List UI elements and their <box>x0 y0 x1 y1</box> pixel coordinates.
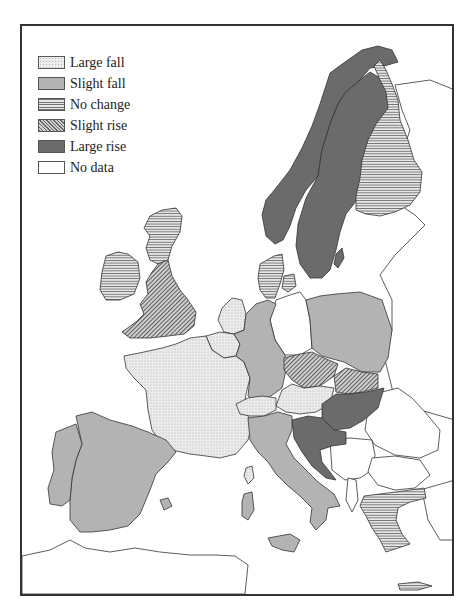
legend-label: Slight rise <box>70 119 127 133</box>
legend-item-slight-rise: Slight rise <box>38 115 130 136</box>
greece <box>360 488 426 552</box>
sardinia <box>242 492 254 520</box>
denmark <box>258 254 284 298</box>
slight-fall-swatch <box>38 77 65 90</box>
albania <box>346 478 358 512</box>
legend-label: Large rise <box>70 140 126 154</box>
balearics <box>160 498 172 510</box>
legend-item-large-rise: Large rise <box>38 136 130 157</box>
legend-label: Large fall <box>70 56 125 70</box>
large-fall-swatch <box>38 56 65 69</box>
legend-label: Slight fall <box>70 77 126 91</box>
legend-item-large-fall: Large fall <box>38 52 130 73</box>
legend-item-no-change: No change <box>38 94 130 115</box>
legend-item-no-data: No data <box>38 157 130 178</box>
bulgaria <box>368 456 430 490</box>
slight-rise-swatch <box>38 119 65 132</box>
no-data-swatch <box>38 161 65 174</box>
legend-label: No data <box>70 161 114 175</box>
turkey <box>420 480 455 540</box>
netherlands <box>218 298 246 334</box>
scotland <box>144 208 182 264</box>
legend-item-slight-fall: Slight fall <box>38 73 130 94</box>
sicily <box>268 534 300 552</box>
legend: Large fall Slight fall No change Slight … <box>38 52 130 178</box>
corsica <box>244 466 254 484</box>
legend-label: No change <box>70 98 130 112</box>
crete <box>398 582 432 590</box>
denmark-islands <box>282 274 296 292</box>
large-rise-swatch <box>38 140 65 153</box>
north-africa <box>22 540 248 594</box>
no-change-swatch <box>38 98 65 111</box>
ireland <box>100 252 140 300</box>
